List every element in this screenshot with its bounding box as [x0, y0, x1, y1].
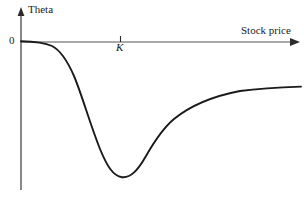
theta-vs-stock-price-chart: Theta Stock price 0 K [0, 0, 304, 198]
y-axis-label: Theta [28, 4, 53, 15]
y-axis-arrowhead [18, 7, 25, 16]
theta-curve [21, 41, 301, 177]
x-axis-arrowhead [290, 38, 300, 46]
origin-tick-label: 0 [9, 35, 15, 46]
strike-price-tick-label: K [116, 42, 123, 53]
x-axis-label: Stock price [241, 25, 291, 36]
